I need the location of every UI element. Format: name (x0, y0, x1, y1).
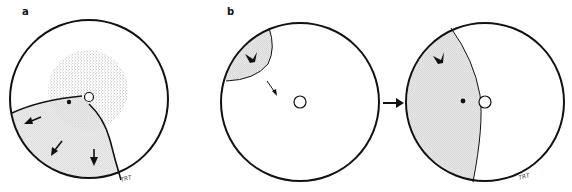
shaded-cap (200, 0, 273, 81)
panel-b: b (200, 0, 379, 181)
figure: a TRT b (0, 0, 572, 192)
black-dot-icon (67, 100, 71, 104)
panel-a: a TRT (0, 6, 168, 192)
sun-open-circle-icon (479, 96, 491, 108)
panel-label-a: a (22, 6, 29, 17)
transition-arrow-icon (383, 98, 404, 108)
sun-open-circle-icon (85, 93, 94, 102)
panel-label-b: b (227, 6, 234, 17)
black-dot-icon (461, 99, 466, 104)
signature-a: TRT (119, 173, 133, 183)
small-arrow-icon (267, 81, 277, 96)
panel-b-right: TRT (400, 0, 564, 192)
shaded-lens (400, 0, 481, 192)
sun-open-circle-icon (294, 96, 306, 108)
